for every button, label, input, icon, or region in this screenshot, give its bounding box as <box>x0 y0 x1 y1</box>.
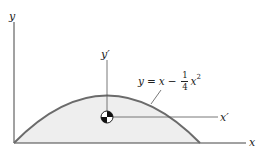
eq-frac-num: 1 <box>182 71 187 80</box>
eq-term1: x <box>159 76 165 87</box>
y-axis-label: y <box>9 11 15 22</box>
eq-exponent: 2 <box>196 74 200 81</box>
centroid-icon <box>101 111 113 123</box>
x-axis-label: x <box>249 137 255 148</box>
equation-leader <box>151 90 161 104</box>
y-prime-label: y′ <box>101 49 110 60</box>
eq-frac-den: 4 <box>182 83 187 92</box>
eq-lhs: y <box>138 76 144 87</box>
diagram-graphics <box>0 0 271 151</box>
parabolic-area-diagram: y x y′ x′ y = x − 1 4 x 2 <box>0 0 271 151</box>
eq-equals: = <box>147 76 156 87</box>
eq-fraction: 1 4 <box>181 71 188 91</box>
eq-minus: − <box>168 76 177 87</box>
x-prime-label: x′ <box>220 112 229 123</box>
curve-equation: y = x − 1 4 x 2 <box>138 71 201 91</box>
